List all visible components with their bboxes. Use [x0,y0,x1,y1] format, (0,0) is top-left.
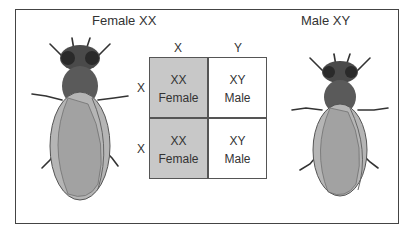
sex: Female [150,92,207,104]
sex: Female [150,153,207,165]
genotype: XX [150,135,207,147]
male-label: Male XY [301,13,350,28]
row-header-x-1: X [137,81,145,95]
cell-male-1: XY Male [208,57,267,118]
genotype: XY [209,74,266,86]
genotype: XY [209,135,266,147]
cell-male-2: XY Male [208,118,267,179]
column-header-x: X [174,41,182,55]
fruit-fly-female-icon [28,34,132,204]
sex: Male [209,153,266,165]
punnett-square: XX Female XY Male XX Female XY Male [149,57,269,180]
cell-female-2: XX Female [149,118,208,179]
row-header-x-2: X [137,142,145,156]
sex: Male [209,92,266,104]
fruit-fly-male-icon [290,52,390,202]
female-label: Female XX [92,13,156,28]
cell-female-1: XX Female [149,57,208,118]
column-header-y: Y [234,41,242,55]
genotype: XX [150,74,207,86]
